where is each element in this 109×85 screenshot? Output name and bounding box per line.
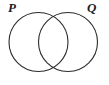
set-label-p: P	[8, 1, 16, 14]
venn-diagram-figure: P Q	[0, 0, 109, 85]
set-label-q: Q	[87, 1, 96, 14]
